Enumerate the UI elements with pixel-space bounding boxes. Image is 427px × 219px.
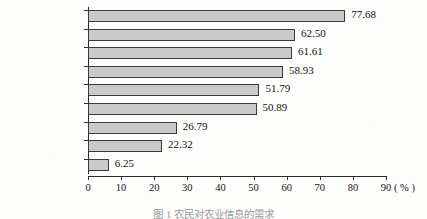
bar xyxy=(88,66,283,78)
bar-value-label: 51.79 xyxy=(265,82,290,94)
value-axis-tick-label: 50 xyxy=(248,182,259,194)
value-axis-tick-label: 30 xyxy=(182,182,193,194)
bar xyxy=(88,84,259,96)
bar-value-label: 6.25 xyxy=(115,157,134,169)
value-axis-tick-label: 80 xyxy=(348,182,359,194)
value-axis-tick-label: 0 xyxy=(85,182,90,194)
bar-value-label: 62.50 xyxy=(301,27,326,39)
value-axis-tick xyxy=(386,176,387,180)
bar xyxy=(88,103,257,115)
value-axis-tick xyxy=(353,176,354,180)
bar xyxy=(88,140,162,152)
value-axis-tick xyxy=(154,176,155,180)
bar-value-label: 58.93 xyxy=(289,64,314,76)
axis-unit-label: ( % ) xyxy=(394,182,415,194)
value-axis-tick-label: 40 xyxy=(215,182,226,194)
value-axis-tick xyxy=(220,176,221,180)
bar-value-label: 50.89 xyxy=(263,101,288,113)
bar-value-label: 26.79 xyxy=(183,120,208,132)
value-axis-tick xyxy=(254,176,255,180)
value-axis-tick-label: 10 xyxy=(116,182,127,194)
bar xyxy=(88,159,109,171)
value-axis-tick-label: 20 xyxy=(149,182,160,194)
value-axis-tick-label: 60 xyxy=(281,182,292,194)
value-axis-tick xyxy=(187,176,188,180)
bar xyxy=(88,122,177,134)
bar xyxy=(88,10,345,22)
bar-value-label: 22.32 xyxy=(168,138,193,150)
value-axis-line xyxy=(88,176,387,177)
bar xyxy=(88,47,292,59)
value-axis-tick-label: 90 xyxy=(381,182,392,194)
bar-chart: 农产品市场信息77.68农业科技62.50农业政策61.61农业致富58.93农… xyxy=(0,0,427,219)
value-axis-tick xyxy=(287,176,288,180)
plot-area: 农产品市场信息77.68农业科技62.50农业政策61.61农业致富58.93农… xyxy=(88,8,386,173)
figure-caption: 图 1 农民对农业信息的需求 xyxy=(0,209,427,219)
value-axis-tick-label: 70 xyxy=(315,182,326,194)
value-axis-tick xyxy=(320,176,321,180)
bar-value-label: 77.68 xyxy=(351,8,376,20)
bar xyxy=(88,29,295,41)
value-axis-tick xyxy=(88,176,89,180)
value-axis-tick xyxy=(121,176,122,180)
bar-value-label: 61.61 xyxy=(298,45,323,57)
